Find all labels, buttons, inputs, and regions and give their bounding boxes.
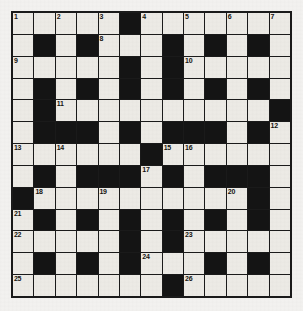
crossword-cell[interactable]	[227, 144, 247, 165]
crossword-cell[interactable]	[13, 122, 33, 143]
crossword-cell[interactable]	[227, 100, 247, 121]
crossword-cell[interactable]: 26	[184, 275, 204, 296]
crossword-cell[interactable]	[184, 79, 204, 100]
crossword-cell[interactable]: 9	[13, 57, 33, 78]
crossword-cell[interactable]	[56, 35, 76, 56]
crossword-cell[interactable]	[184, 188, 204, 209]
crossword-cell[interactable]	[120, 100, 140, 121]
crossword-cell[interactable]	[99, 210, 119, 231]
crossword-cell[interactable]: 25	[13, 275, 33, 296]
crossword-cell[interactable]	[227, 122, 247, 143]
crossword-cell[interactable]	[77, 100, 97, 121]
crossword-cell[interactable]	[270, 144, 290, 165]
crossword-cell[interactable]: 15	[163, 144, 183, 165]
crossword-cell[interactable]	[99, 57, 119, 78]
crossword-cell[interactable]	[205, 13, 225, 34]
crossword-cell[interactable]	[34, 144, 54, 165]
crossword-cell[interactable]	[120, 275, 140, 296]
crossword-cell[interactable]	[227, 79, 247, 100]
crossword-cell[interactable]	[270, 188, 290, 209]
crossword-cell[interactable]: 21	[13, 210, 33, 231]
crossword-cell[interactable]	[141, 210, 161, 231]
crossword-cell[interactable]: 3	[99, 13, 119, 34]
crossword-cell[interactable]	[205, 57, 225, 78]
crossword-cell[interactable]	[141, 231, 161, 252]
crossword-cell[interactable]	[205, 275, 225, 296]
crossword-cell[interactable]	[34, 275, 54, 296]
crossword-cell[interactable]: 11	[56, 100, 76, 121]
crossword-cell[interactable]: 1	[13, 13, 33, 34]
crossword-cell[interactable]	[248, 100, 268, 121]
crossword-cell[interactable]: 5	[184, 13, 204, 34]
crossword-cell[interactable]	[34, 13, 54, 34]
crossword-cell[interactable]: 4	[141, 13, 161, 34]
crossword-cell[interactable]	[120, 144, 140, 165]
crossword-cell[interactable]	[163, 13, 183, 34]
crossword-cell[interactable]	[184, 100, 204, 121]
crossword-cell[interactable]	[99, 144, 119, 165]
crossword-cell[interactable]	[56, 275, 76, 296]
crossword-cell[interactable]	[163, 253, 183, 274]
crossword-cell[interactable]	[120, 35, 140, 56]
crossword-cell[interactable]	[184, 166, 204, 187]
crossword-cell[interactable]	[270, 275, 290, 296]
crossword-cell[interactable]: 20	[227, 188, 247, 209]
crossword-cell[interactable]	[141, 57, 161, 78]
crossword-cell[interactable]	[227, 35, 247, 56]
crossword-cell[interactable]	[77, 275, 97, 296]
crossword-cell[interactable]: 8	[99, 35, 119, 56]
crossword-cell[interactable]	[99, 100, 119, 121]
crossword-cell[interactable]	[56, 210, 76, 231]
crossword-cell[interactable]	[13, 79, 33, 100]
crossword-cell[interactable]	[270, 57, 290, 78]
crossword-cell[interactable]	[34, 57, 54, 78]
crossword-cell[interactable]: 13	[13, 144, 33, 165]
crossword-cell[interactable]	[163, 188, 183, 209]
crossword-cell[interactable]	[270, 166, 290, 187]
crossword-cell[interactable]	[270, 231, 290, 252]
crossword-cell[interactable]	[77, 144, 97, 165]
crossword-cell[interactable]	[77, 57, 97, 78]
crossword-cell[interactable]	[13, 35, 33, 56]
crossword-cell[interactable]: 19	[99, 188, 119, 209]
crossword-cell[interactable]	[141, 188, 161, 209]
crossword-cell[interactable]	[184, 253, 204, 274]
crossword-cell[interactable]	[248, 275, 268, 296]
crossword-cell[interactable]	[99, 79, 119, 100]
crossword-cell[interactable]	[227, 253, 247, 274]
crossword-cell[interactable]	[270, 35, 290, 56]
crossword-cell[interactable]	[248, 57, 268, 78]
crossword-cell[interactable]	[141, 122, 161, 143]
crossword-cell[interactable]	[227, 275, 247, 296]
crossword-cell[interactable]: 16	[184, 144, 204, 165]
crossword-cell[interactable]	[99, 275, 119, 296]
crossword-cell[interactable]	[141, 275, 161, 296]
crossword-cell[interactable]	[13, 166, 33, 187]
crossword-cell[interactable]	[270, 210, 290, 231]
crossword-cell[interactable]	[248, 144, 268, 165]
crossword-cell[interactable]	[56, 57, 76, 78]
crossword-cell[interactable]	[141, 79, 161, 100]
crossword-cell[interactable]	[141, 35, 161, 56]
crossword-cell[interactable]	[227, 210, 247, 231]
crossword-cell[interactable]	[56, 253, 76, 274]
crossword-cell[interactable]: 10	[184, 57, 204, 78]
crossword-cell[interactable]	[205, 100, 225, 121]
crossword-cell[interactable]: 7	[270, 13, 290, 34]
crossword-cell[interactable]	[270, 79, 290, 100]
crossword-cell[interactable]: 2	[56, 13, 76, 34]
crossword-cell[interactable]	[99, 231, 119, 252]
crossword-cell[interactable]	[56, 79, 76, 100]
crossword-cell[interactable]	[184, 210, 204, 231]
crossword-cell[interactable]: 17	[141, 166, 161, 187]
crossword-cell[interactable]	[248, 231, 268, 252]
crossword-cell[interactable]: 23	[184, 231, 204, 252]
crossword-cell[interactable]	[13, 100, 33, 121]
crossword-cell[interactable]	[56, 231, 76, 252]
crossword-cell[interactable]	[163, 100, 183, 121]
crossword-cell[interactable]: 12	[270, 122, 290, 143]
crossword-cell[interactable]	[77, 231, 97, 252]
crossword-cell[interactable]	[120, 188, 140, 209]
crossword-cell[interactable]	[13, 253, 33, 274]
crossword-cell[interactable]	[56, 188, 76, 209]
